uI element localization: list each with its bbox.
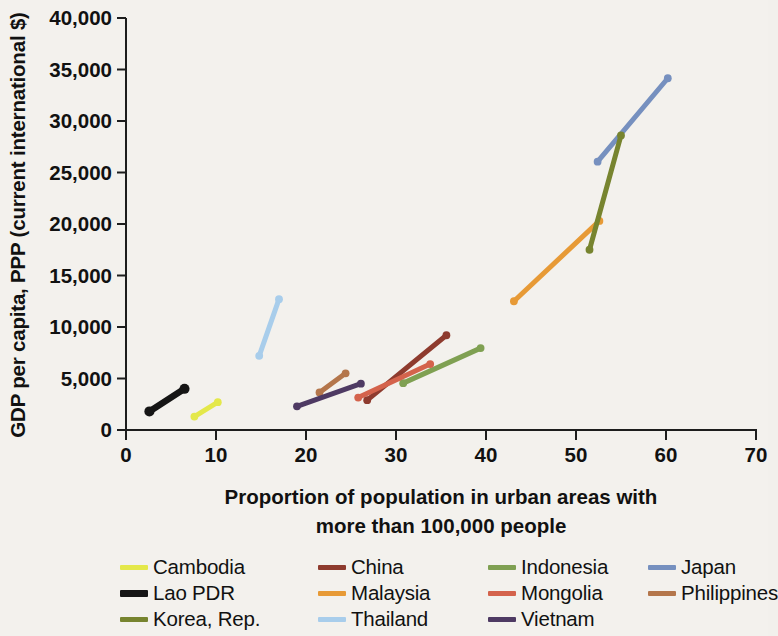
series-point (363, 396, 371, 404)
series-point (426, 360, 434, 368)
series-point (477, 344, 485, 352)
legend-row: Korea, Rep.ThailandVietnam (120, 606, 768, 632)
series-path (149, 389, 184, 412)
series-path (358, 364, 430, 397)
plot-area: 05,00010,00015,00020,00025,00030,00035,0… (0, 0, 768, 470)
x-tick-mark-group (126, 430, 756, 440)
series-line-malaysia (510, 217, 603, 305)
series-point (354, 394, 362, 402)
legend-row: CambodiaChinaIndonesiaJapan (120, 554, 768, 580)
legend-label: Korea, Rep. (153, 607, 260, 631)
y-tick-label: 0 (101, 418, 112, 441)
legend-swatch-icon (318, 617, 346, 622)
legend-label: Mongolia (521, 581, 603, 605)
series-point (255, 352, 263, 360)
series-path (194, 402, 217, 416)
series-point (357, 380, 365, 388)
legend-label: Indonesia (521, 555, 608, 579)
legend-swatch-icon (488, 591, 516, 596)
legend-swatch-icon (648, 565, 676, 570)
legend-row: Lao PDRMalaysiaMongoliaPhilippines (120, 580, 768, 606)
y-tick-label: 30,000 (49, 109, 112, 132)
series-path (514, 221, 600, 301)
series-point (510, 297, 518, 305)
legend-label: Japan (681, 555, 736, 579)
legend-item-japan[interactable]: Japan (648, 555, 768, 579)
legend-label: Vietnam (521, 607, 594, 631)
series-point (594, 158, 602, 166)
legend-swatch-icon (120, 617, 148, 622)
y-tick-label-group: 05,00010,00015,00020,00025,00030,00035,0… (49, 6, 112, 441)
x-tick-label: 10 (205, 443, 228, 466)
legend-label: Malaysia (351, 581, 430, 605)
series-path (598, 78, 668, 161)
series-point (617, 132, 625, 140)
x-axis-title-line1: Proportion of population in urban areas … (126, 482, 756, 511)
legend-swatch-icon (488, 617, 516, 622)
series-line-lao-pdr (144, 384, 189, 417)
x-tick-label: 30 (385, 443, 408, 466)
legend-swatch-icon (648, 591, 676, 596)
x-axis-title-line2: more than 100,000 people (126, 511, 756, 540)
series-line-cambodia (191, 398, 222, 420)
legend-item-lao-pdr[interactable]: Lao PDR (120, 581, 318, 605)
series-point (214, 398, 222, 406)
legend-item-indonesia[interactable]: Indonesia (488, 555, 648, 579)
legend-swatch-icon (488, 565, 516, 570)
chart-legend: CambodiaChinaIndonesiaJapanLao PDRMalays… (120, 554, 768, 632)
y-tick-label: 5,000 (61, 367, 112, 390)
x-tick-label: 70 (745, 443, 768, 466)
legend-label: Thailand (351, 607, 428, 631)
legend-label: Philippines (681, 581, 778, 605)
series-point (664, 74, 672, 82)
series-line-mongolia (354, 360, 434, 401)
series-point (191, 413, 199, 421)
legend-label: China (351, 555, 404, 579)
y-tick-label: 25,000 (49, 161, 112, 184)
series-point (586, 246, 594, 254)
legend-swatch-icon (120, 590, 148, 597)
series-point (342, 369, 350, 377)
legend-item-cambodia[interactable]: Cambodia (120, 555, 318, 579)
series-line-thailand (255, 295, 283, 359)
x-tick-label-group: 010203040506070 (120, 443, 767, 466)
x-tick-label: 0 (120, 443, 131, 466)
legend-label: Cambodia (153, 555, 245, 579)
legend-swatch-icon (318, 591, 346, 596)
y-tick-label: 40,000 (49, 6, 112, 29)
legend-item-vietnam[interactable]: Vietnam (488, 607, 648, 631)
legend-item-philippines[interactable]: Philippines (648, 581, 768, 605)
data-series-group (144, 74, 671, 420)
series-line-japan (594, 74, 672, 165)
y-tick-label: 10,000 (49, 315, 112, 338)
legend-swatch-icon (318, 565, 346, 570)
legend-item-mongolia[interactable]: Mongolia (488, 581, 648, 605)
y-tick-label: 15,000 (49, 264, 112, 287)
legend-swatch-icon (120, 565, 148, 570)
series-path (259, 299, 279, 356)
x-tick-label: 50 (565, 443, 588, 466)
x-tick-label: 40 (475, 443, 498, 466)
series-point (275, 295, 283, 303)
series-point (443, 331, 451, 339)
series-point (179, 384, 189, 394)
series-point (293, 402, 301, 410)
series-point (144, 406, 154, 416)
series-path (403, 348, 480, 383)
legend-item-thailand[interactable]: Thailand (318, 607, 488, 631)
legend-item-china[interactable]: China (318, 555, 488, 579)
legend-item-malaysia[interactable]: Malaysia (318, 581, 488, 605)
x-tick-label: 20 (295, 443, 318, 466)
legend-label: Lao PDR (153, 581, 235, 605)
x-tick-label: 60 (655, 443, 678, 466)
y-tick-label: 35,000 (49, 58, 112, 81)
legend-item-korea-rep[interactable]: Korea, Rep. (120, 607, 318, 631)
y-tick-label: 20,000 (49, 212, 112, 235)
y-tick-mark-group (117, 18, 126, 430)
x-axis-title: Proportion of population in urban areas … (126, 482, 756, 540)
